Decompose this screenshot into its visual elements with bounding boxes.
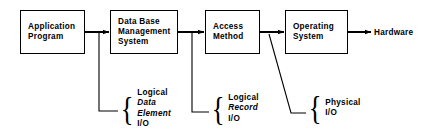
annotation-line: Data: [137, 98, 171, 108]
node-label-line: Program: [28, 32, 63, 42]
annotation-line: Logical: [228, 93, 258, 103]
node-label-line: System: [293, 32, 324, 42]
annotation-text-block: Logical Record I/O: [228, 93, 258, 124]
annotation-text-block: Physical I/O: [325, 98, 360, 119]
node-application-program[interactable]: Application Program: [20, 10, 85, 54]
node-access-method[interactable]: Access Method: [205, 10, 260, 54]
node-label-line: System: [118, 37, 149, 47]
node-label-line: Method: [213, 32, 244, 42]
annotation-line: I/O: [325, 108, 360, 118]
node-label-line: Management: [118, 27, 171, 37]
annotation-line: Physical: [325, 98, 360, 108]
node-label-line: Data Base: [118, 17, 160, 27]
annotation-physical-io: { Physical I/O: [307, 98, 361, 119]
annotation-line: Logical: [137, 88, 171, 98]
annotation-logical-record-io: { Logical Record I/O: [210, 93, 259, 124]
annotation-logical-data-element-io: { Logical Data Element I/O: [119, 88, 171, 130]
node-label-line: Application: [28, 22, 75, 32]
node-operating-system[interactable]: Operating System: [285, 10, 348, 54]
node-label-line: Access: [213, 22, 243, 32]
annotation-line: Record: [228, 103, 258, 113]
node-data-base-management-system[interactable]: Data Base Management System: [110, 10, 178, 54]
data-flow-diagram: Application Program Data Base Management…: [0, 0, 437, 140]
terminal-label-hardware: Hardware: [374, 28, 413, 37]
annotation-line: Element: [137, 109, 171, 119]
annotation-line: I/O: [137, 119, 171, 129]
annotation-text-block: Logical Data Element I/O: [137, 88, 171, 130]
node-label-line: Operating: [293, 22, 334, 32]
annotation-line: I/O: [228, 114, 258, 124]
